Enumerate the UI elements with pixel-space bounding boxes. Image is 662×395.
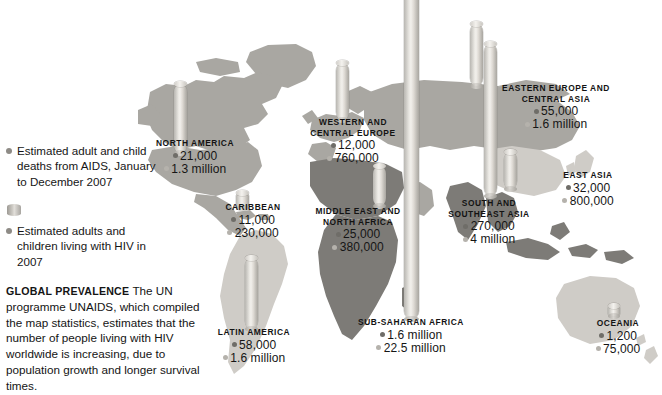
region-name-line-1: EASTERN EUROPE AND [482, 84, 630, 93]
deaths-dot-icon [566, 185, 571, 190]
region-name-line-2: CENTRAL ASIA [482, 95, 630, 104]
region-name: NORTH AMERICA [140, 139, 250, 148]
region-label-oceania: OCEANIA 1,200 75,000 [580, 319, 656, 355]
region-name-line-2: SOUTHEAST ASIA [428, 210, 550, 219]
deaths-dot-icon [173, 153, 178, 158]
map-legend-living: Estimated adults and children living wit… [6, 204, 156, 269]
region-label-south-southeast-asia: SOUTH AND SOUTHEAST ASIA 270,000 4 milli… [428, 199, 550, 246]
living-dot-icon [223, 355, 228, 360]
living-dot-icon [376, 345, 381, 350]
global-prevalence-caption: GLOBAL PREVALENCE The UN programme UNAID… [6, 283, 212, 394]
region-label-western-central-europe: WESTERN AND CENTRAL EUROPE 12,000 760,00… [292, 118, 414, 165]
legend-living-label: Estimated adults and children living wit… [6, 223, 156, 269]
caption-body: The UN programme UNAIDS, which compiled … [6, 284, 200, 392]
region-name: LATIN AMERICA [196, 328, 312, 337]
region-name: CARIBBEAN [200, 203, 306, 212]
legend-item-living: Estimated adults and children living wit… [6, 223, 156, 269]
region-label-eastern-europe-central-asia: EASTERN EUROPE AND CENTRAL ASIA 55,000 1… [482, 84, 630, 131]
cylinder-east-asia [504, 152, 517, 189]
deaths-dot-icon [231, 217, 236, 222]
deaths-dot-icon [331, 143, 336, 148]
region-name-line-2: CENTRAL EUROPE [292, 129, 414, 138]
region-living-value: 1.3 million [140, 163, 250, 176]
legend-item-deaths: Estimated adult and child deaths from AI… [6, 143, 156, 189]
region-living-value: 1.6 million [196, 352, 312, 365]
region-label-middle-east-north-africa: MIDDLE EAST AND NORTH AFRICA 25,000 380,… [296, 207, 420, 254]
region-label-latin-america: LATIN AMERICA 58,000 1.6 million [196, 328, 312, 364]
region-name-line-2: NORTH AFRICA [296, 218, 420, 227]
region-living-value: 4 million [428, 233, 550, 246]
map-legend: Estimated adult and child deaths from AI… [6, 143, 156, 189]
deaths-dot-icon [463, 224, 468, 229]
living-dot-icon [525, 122, 530, 127]
region-name: OCEANIA [580, 319, 656, 328]
region-name-line-1: SOUTH AND [428, 199, 550, 208]
deaths-dot-icon [232, 342, 237, 347]
region-name: SUB-SAHARAN AFRICA [336, 318, 486, 327]
deaths-dot-icon [380, 332, 385, 337]
cylinder-eastern-europe-central-asia [470, 24, 483, 86]
region-living-value: 800,000 [536, 195, 640, 208]
living-dot-icon [463, 237, 468, 242]
deaths-dot-icon [599, 333, 604, 338]
region-living-value: 760,000 [292, 152, 414, 165]
region-name-line-1: WESTERN AND [292, 118, 414, 127]
deaths-dot-icon [6, 148, 12, 154]
region-living-value: 230,000 [200, 227, 306, 240]
region-label-north-america: NORTH AMERICA 21,000 1.3 million [140, 139, 250, 175]
living-dot-icon [332, 245, 337, 250]
living-dot-icon [562, 198, 567, 203]
deaths-dot-icon [336, 232, 341, 237]
cylinder-middle-east-north-africa [373, 166, 386, 206]
living-dot-icon [596, 346, 601, 351]
region-living-value: 75,000 [580, 343, 656, 356]
region-label-sub-saharan-africa: SUB-SAHARAN AFRICA 1.6 million 22.5 mill… [336, 318, 486, 354]
deaths-dot-icon [534, 109, 539, 114]
living-dot-icon [164, 166, 169, 171]
living-dot-icon [227, 230, 232, 235]
region-living-value: 22.5 million [336, 342, 486, 355]
cylinder-western-central-europe [336, 63, 349, 120]
living-cylinder-icon [7, 204, 21, 216]
cylinder-oceania [608, 306, 620, 316]
living-dot-icon [6, 228, 12, 234]
region-label-caribbean: CARIBBEAN 11,000 230,000 [200, 203, 306, 239]
region-name-line-1: MIDDLE EAST AND [296, 207, 420, 216]
living-dot-icon [327, 156, 332, 161]
region-living-value: 380,000 [296, 241, 420, 254]
legend-deaths-label: Estimated adult and child deaths from AI… [6, 143, 156, 189]
region-name: EAST ASIA [536, 171, 640, 180]
region-living-value: 1.6 million [482, 118, 630, 131]
cylinder-latin-america [245, 258, 258, 329]
region-label-east-asia: EAST ASIA 32,000 800,000 [536, 171, 640, 207]
caption-heading: GLOBAL PREVALENCE [6, 285, 129, 297]
